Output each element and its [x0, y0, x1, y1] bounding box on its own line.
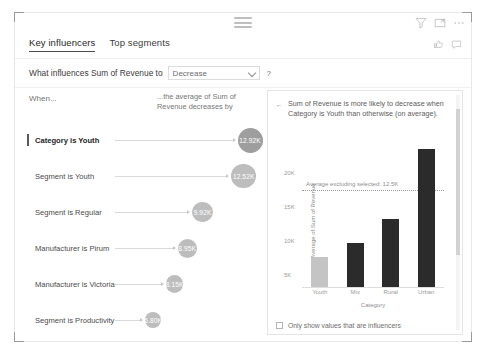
influencer-row[interactable]: Manufacturer is Pirum8.95K — [15, 228, 263, 268]
analysis-type-value: Decrease — [173, 69, 207, 78]
influencer-connector-line — [115, 212, 187, 213]
visual-reaction-icons — [433, 39, 462, 50]
plot-area: Average excluding selected: 12.5K — [302, 139, 444, 288]
chevron-down-icon — [247, 69, 255, 77]
x-axis-tick-label: Urban — [412, 289, 440, 299]
visual-tabs: Key influencers Top segments — [29, 37, 170, 52]
comment-icon[interactable] — [451, 39, 462, 50]
influencer-connector-line — [115, 248, 173, 249]
influencer-connector-line — [115, 176, 226, 177]
influencer-label: Segment is Productivity — [35, 316, 114, 325]
detail-pane-scrollbar[interactable] — [456, 95, 460, 330]
influencer-value-bubble[interactable]: 8.95K — [178, 239, 197, 258]
tab-key-influencers[interactable]: Key influencers — [29, 37, 95, 52]
x-axis-tick-label: Youth — [306, 289, 334, 299]
drag-handle-bar — [234, 17, 252, 19]
filter-icon[interactable] — [415, 17, 427, 29]
influencer-row[interactable]: Manufacturer is Victoria8.15K — [15, 264, 263, 304]
insight-text: Sum of Revenue is more likely to decreas… — [288, 99, 446, 118]
bar-column[interactable] — [412, 139, 440, 288]
visual-corner-top-left — [14, 12, 24, 22]
visual-header-icons — [415, 17, 465, 29]
key-influencers-visual: Key influencers Top segments What influe… — [14, 12, 472, 342]
influencer-value-bubble[interactable]: 9.92K — [192, 202, 212, 222]
x-axis-line — [302, 287, 444, 288]
y-axis-tick-label: 10K — [284, 238, 295, 244]
bar[interactable] — [347, 243, 364, 288]
tab-top-segments[interactable]: Top segments — [109, 37, 169, 52]
insight-callout: ← Sum of Revenue is more likely to decre… — [276, 99, 446, 118]
connector-arrow-icon — [226, 174, 229, 178]
question-row: What influences Sum of Revenue to Decrea… — [29, 65, 457, 81]
only-influencers-checkbox[interactable] — [276, 322, 283, 329]
bar[interactable] — [311, 257, 328, 288]
influencers-pane-header: When... ...the average of Sum of Revenue… — [29, 92, 257, 116]
bar[interactable] — [418, 149, 435, 288]
bar-column[interactable] — [377, 139, 405, 288]
influencer-row[interactable]: Segment is Youth12.52K — [15, 156, 263, 196]
more-options-icon[interactable] — [453, 17, 465, 29]
influencer-value-bubble[interactable]: 12.52K — [231, 164, 255, 188]
influencer-label: Category is Youth — [35, 136, 99, 145]
influencer-list: Category is Youth12.92KSegment is Youth1… — [15, 118, 263, 341]
y-axis-tick-label: 5K — [284, 272, 291, 278]
influencer-row[interactable]: Segment is Productivity6.80K — [15, 300, 263, 340]
bar-column[interactable] — [306, 139, 334, 288]
influencer-value-bubble[interactable]: 6.80K — [145, 312, 161, 328]
x-axis-tick-label: Mix — [341, 289, 369, 299]
influencer-value-bubble[interactable]: 8.15K — [166, 275, 184, 293]
thumbs-up-icon[interactable] — [433, 39, 444, 50]
connector-arrow-icon — [161, 282, 164, 286]
connector-arrow-icon — [140, 318, 143, 322]
influencer-row[interactable]: Category is Youth12.92K — [15, 120, 263, 160]
influencer-connector-line — [115, 140, 233, 141]
average-change-label: ...the average of Sum of Revenue decreas… — [157, 92, 243, 111]
detail-bar-chart: Average of Sum of Revenue 5K10K15K20K Av… — [276, 137, 446, 304]
insight-arrow-icon: ← — [276, 100, 283, 109]
influencer-connector-line — [115, 320, 140, 321]
influencer-label: Manufacturer is Pirum — [35, 244, 109, 253]
connector-arrow-icon — [187, 210, 190, 214]
when-label: When... — [29, 94, 57, 103]
scrollbar-thumb[interactable] — [456, 109, 460, 255]
detail-footer: Only show values that are influencers — [276, 322, 401, 329]
influencer-connector-line — [115, 284, 161, 285]
bar-series — [302, 139, 444, 288]
influencer-value-bubble[interactable]: 12.92K — [238, 128, 263, 153]
question-label: What influences Sum of Revenue to — [29, 68, 163, 78]
influencers-pane: When... ...the average of Sum of Revenue… — [15, 88, 263, 341]
help-icon[interactable]: ? — [265, 69, 273, 78]
bar[interactable] — [382, 219, 399, 288]
influencer-label: Manufacturer is Victoria — [35, 280, 115, 289]
row-selection-indicator — [27, 134, 29, 146]
x-axis-ticks: YouthMixRuralUrban — [302, 289, 444, 299]
visual-body: When... ...the average of Sum of Revenue… — [15, 88, 471, 341]
focus-mode-icon[interactable] — [434, 17, 446, 29]
screenshot-root: Key influencers Top segments What influe… — [0, 0, 486, 362]
drag-handle-bar — [234, 26, 252, 28]
drag-handle-bar — [234, 22, 252, 24]
drag-handle-icon[interactable] — [234, 17, 252, 28]
influencer-label: Segment is Youth — [35, 172, 94, 181]
x-axis-title: Category — [302, 302, 444, 308]
influencer-label: Segment is Regular — [35, 208, 102, 217]
influencer-row[interactable]: State is NY6.28K — [15, 336, 263, 341]
connector-arrow-icon — [173, 246, 176, 250]
analysis-type-select[interactable]: Decrease — [168, 66, 260, 80]
connector-arrow-icon — [233, 138, 236, 142]
y-axis-tick-label: 20K — [284, 170, 295, 176]
y-axis-tick-label: 15K — [284, 204, 295, 210]
bar-column[interactable] — [341, 139, 369, 288]
influencer-detail-pane: ← Sum of Revenue is more likely to decre… — [267, 90, 463, 335]
x-axis-tick-label: Rural — [377, 289, 405, 299]
only-influencers-label: Only show values that are influencers — [288, 322, 401, 329]
influencer-row[interactable]: Segment is Regular9.92K — [15, 192, 263, 232]
header-divider — [15, 58, 471, 59]
